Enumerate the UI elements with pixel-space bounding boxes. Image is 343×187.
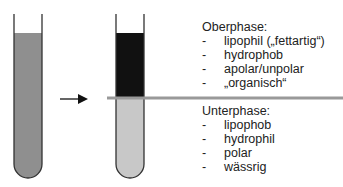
list-item: -wässrig (202, 160, 275, 174)
lower-phase-title: Unterphase: (202, 104, 275, 118)
list-item: -apolar/unpolar (202, 62, 325, 76)
lower-phase-list: Unterphase: -lipophob -hydrophil -polar … (202, 104, 275, 174)
upper-phase-title: Oberphase: (202, 20, 325, 34)
arrow-icon (60, 94, 88, 104)
list-item: -hydrophil (202, 132, 275, 146)
test-tube-mixture (14, 14, 42, 178)
upper-phase-list: Oberphase: -lipophil („fettartig“) -hydr… (202, 20, 325, 90)
list-item: -„organisch“ (202, 76, 325, 90)
lower-phase-liquid (116, 98, 144, 178)
list-item: -lipophob (202, 118, 275, 132)
upper-phase-liquid (116, 33, 144, 98)
list-item: -polar (202, 146, 275, 160)
test-tube-separated (116, 14, 144, 178)
list-item: -lipophil („fettartig“) (202, 34, 325, 48)
list-item: -hydrophob (202, 48, 325, 62)
